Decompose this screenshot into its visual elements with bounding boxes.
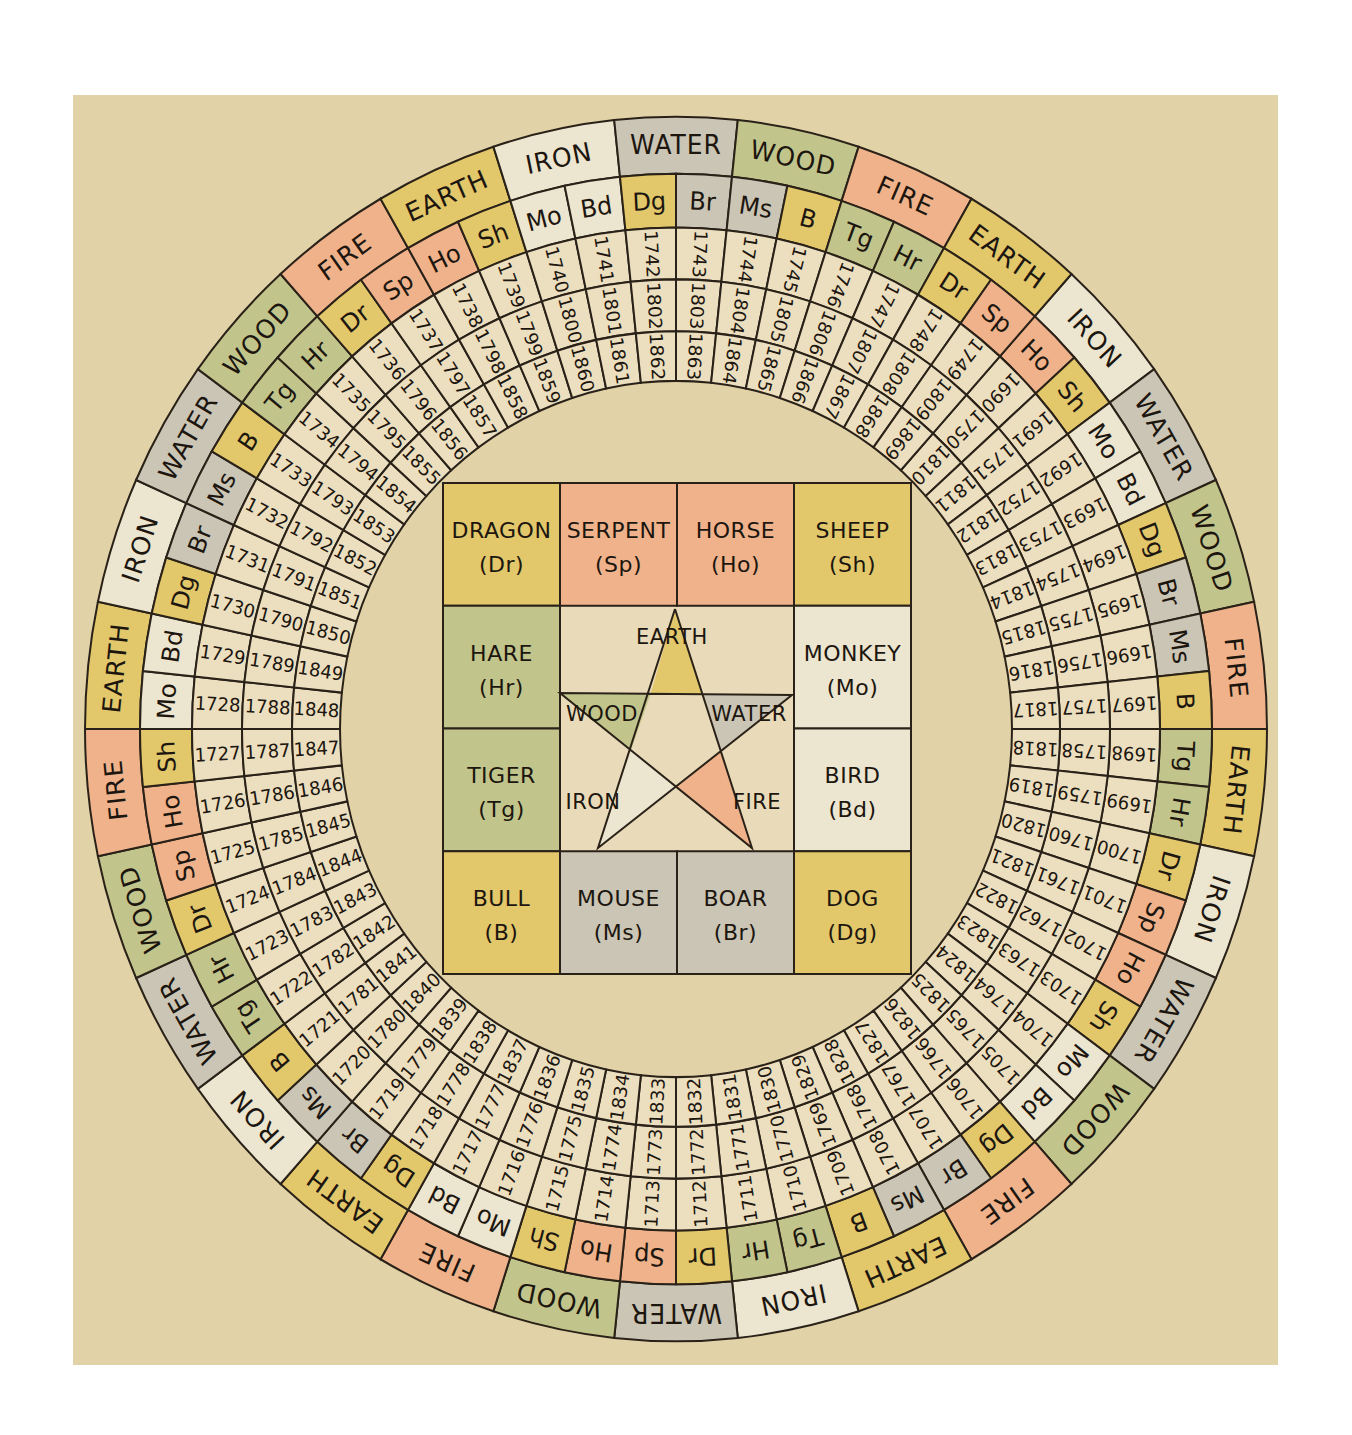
animal-key-monkey: MONKEY(Mo) [794, 606, 911, 729]
animal-cell: Sp [620, 1228, 676, 1285]
animal-label: Sh [152, 740, 182, 773]
animal-key-tiger: TIGER(Tg) [443, 729, 560, 852]
year-label: 1712 [689, 1180, 712, 1228]
animal-abbreviation: (Ho) [711, 552, 760, 577]
animal-abbreviation: (Mo) [827, 675, 879, 700]
year-label: 1757 [1061, 695, 1108, 719]
animal-abbreviation: (Dr) [479, 552, 524, 577]
element-cell: WATER [614, 1281, 738, 1341]
animal-label: Hr [739, 1234, 772, 1268]
animal-key-cell-bg [560, 851, 677, 974]
animal-label: Bd [578, 190, 614, 224]
animal-cell: Bd [565, 177, 626, 239]
year-cell: 1773 [631, 1125, 676, 1179]
year-label: 1772 [686, 1128, 709, 1176]
animal-name: MOUSE [577, 886, 660, 911]
animal-key-cell-bg [677, 483, 794, 606]
year-label: 1713 [640, 1180, 663, 1228]
year-cell: 1833 [636, 1075, 676, 1127]
animal-key-cell-bg [443, 606, 560, 729]
element-cell: WATER [614, 117, 738, 177]
year-label: 1833 [646, 1077, 669, 1125]
animal-label: Ms [737, 190, 774, 225]
animal-key-cell-bg [677, 851, 794, 974]
year-label: 1773 [643, 1128, 666, 1176]
year-label: 1803 [686, 282, 709, 330]
animal-label: Mo [152, 682, 182, 720]
year-cell: 1758 [1058, 729, 1110, 776]
year-label: 1818 [1012, 737, 1059, 761]
year-cell: 1713 [625, 1176, 676, 1230]
animal-name: DOG [826, 886, 879, 911]
year-label: 1788 [244, 695, 291, 719]
animal-key-dog: DOG(Dg) [794, 851, 911, 974]
animal-name: BOAR [704, 886, 768, 911]
animal-abbreviation: (Bd) [828, 797, 876, 822]
year-label: 1727 [194, 742, 241, 766]
animal-key-cell-bg [443, 729, 560, 852]
year-cell: 1802 [631, 279, 676, 333]
element-label: WATER [630, 130, 722, 161]
animal-key-cell-bg [443, 483, 560, 606]
animal-key-serpent: SERPENT(Sp) [560, 483, 677, 606]
year-cell: 1847 [292, 729, 342, 771]
year-cell: 1696 [1101, 625, 1158, 682]
animal-abbreviation: (Tg) [478, 797, 525, 822]
animal-name: HARE [470, 641, 533, 666]
year-label: 1863 [683, 332, 706, 380]
year-cell: 1757 [1058, 682, 1110, 729]
element-label: WATER [630, 1298, 722, 1329]
year-cell: 1832 [676, 1075, 716, 1127]
animal-label: Sp [633, 1241, 665, 1272]
animal-key-horse: HORSE(Ho) [677, 483, 794, 606]
animal-key-dragon: DRAGON(Dr) [443, 483, 560, 606]
animal-key-bull: BULL(B) [443, 851, 560, 974]
year-cell: 1698 [1108, 729, 1160, 781]
year-label: 1862 [646, 332, 669, 380]
animal-cell: Tg [1157, 729, 1212, 787]
animal-label: B [1171, 692, 1200, 711]
animal-cell: Sh [140, 729, 195, 787]
year-cell: 1848 [292, 687, 342, 729]
animal-label: Ho [578, 1234, 615, 1268]
animal-cell: Dg [620, 174, 676, 231]
animal-name: SHEEP [815, 518, 889, 543]
animal-label: Tg [1170, 739, 1200, 772]
animal-cell: B [1157, 671, 1212, 729]
year-label: 1697 [1111, 692, 1158, 716]
pentagram-label-fire: FIRE [733, 790, 781, 814]
animal-label: Dg [632, 186, 667, 217]
year-cell: 1697 [1108, 677, 1160, 729]
animal-key-cell-bg [794, 606, 911, 729]
year-cell: 1803 [676, 279, 721, 333]
year-cell: 1862 [636, 331, 676, 383]
animal-key-square: DRAGON(Dr)SERPENT(Sp)HORSE(Ho)SHEEP(Sh)H… [443, 483, 911, 974]
element-label: FIRE [1219, 636, 1254, 700]
year-label: 1847 [293, 737, 340, 761]
year-cell: 1742 [625, 228, 676, 282]
year-cell: 1728 [192, 677, 244, 729]
animal-name: TIGER [466, 763, 536, 788]
year-label: 1787 [244, 739, 291, 763]
year-cell: 1741 [575, 230, 630, 289]
animal-abbreviation: (Br) [714, 920, 757, 945]
year-label: 1698 [1111, 742, 1158, 766]
animal-cell: Ho [143, 781, 203, 844]
year-label: 1848 [293, 698, 340, 722]
animal-name: BIRD [825, 763, 881, 788]
year-label: 1743 [689, 230, 712, 278]
animal-label: Br [689, 186, 718, 217]
animal-key-cell-bg [560, 483, 677, 606]
year-cell: 1743 [676, 228, 727, 282]
year-cell: 1788 [242, 682, 294, 729]
animal-key-hare: HARE(Hr) [443, 606, 560, 729]
animal-key-bird: BIRD(Bd) [794, 729, 911, 852]
year-label: 1832 [683, 1077, 706, 1125]
animal-key-cell-bg [794, 729, 911, 852]
animal-abbreviation: (Sh) [829, 552, 876, 577]
year-cell: 1711 [721, 1169, 776, 1228]
year-label: 1742 [640, 230, 663, 278]
animal-abbreviation: (Hr) [479, 675, 524, 700]
animal-cell: Ms [1149, 614, 1209, 677]
animal-name: BULL [473, 886, 531, 911]
